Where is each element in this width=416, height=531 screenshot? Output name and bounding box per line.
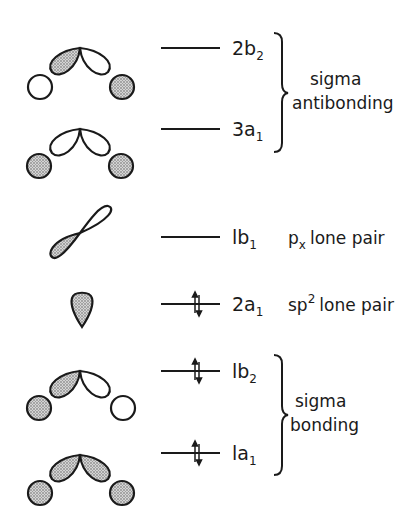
mo-diagram: 2b2 3a1 lb1 2a1 lb2 la1 pxlone pair sp2l… <box>0 0 416 531</box>
description-sp2-lone-pair: sp2lone pair <box>288 292 394 315</box>
brace-bonding <box>274 355 288 475</box>
level-label-2b2: 2b2 <box>232 37 264 63</box>
group-label-bonding-line2: bonding <box>290 415 359 435</box>
orbital-1b2-drawing <box>27 371 135 420</box>
orbital-1b1-drawing <box>50 206 111 258</box>
brace-antibonding <box>274 33 288 152</box>
orbital-1a1-drawing <box>28 455 134 505</box>
level-label-2a1: 2a1 <box>232 293 263 319</box>
group-label-antibonding-line1: sigma <box>310 69 361 89</box>
level-label-3a1: 3a1 <box>232 118 263 144</box>
level-label-1a1: la1 <box>232 442 257 468</box>
orbital-2b2-drawing <box>28 48 134 99</box>
level-label-1b1: lb1 <box>232 226 257 252</box>
description-px-lone-pair: pxlone pair <box>288 228 385 252</box>
group-label-antibonding-line2: antibonding <box>292 93 394 113</box>
orbital-2a1-drawing <box>72 293 93 327</box>
orbital-3a1-drawing <box>27 129 133 178</box>
level-label-1b2: lb2 <box>232 360 257 386</box>
group-label-bonding-line1: sigma <box>295 391 346 411</box>
